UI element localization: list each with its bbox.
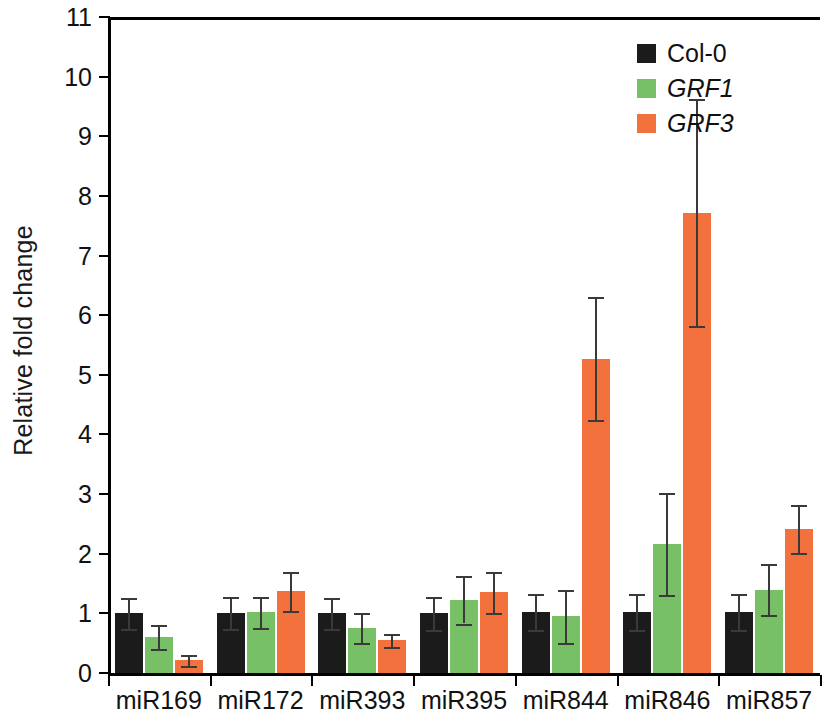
error-bar-cap-lower <box>456 624 472 626</box>
error-bar-cap-lower <box>588 420 604 422</box>
y-axis-tick-label: 4 <box>44 420 92 449</box>
error-bar-cap-lower <box>354 643 370 645</box>
legend-label-grf1: GRF1 <box>667 74 734 103</box>
error-bar-cap-lower <box>528 630 544 632</box>
legend-swatch-grf1 <box>637 79 656 98</box>
error-bar-line <box>230 597 232 629</box>
y-axis-tick <box>99 433 110 435</box>
y-axis-tick-label: 8 <box>44 181 92 210</box>
error-bar-line <box>331 598 333 629</box>
error-bar-line <box>666 493 668 594</box>
error-bar-cap-lower <box>629 630 645 632</box>
y-axis-tick <box>99 672 110 674</box>
error-bar-cap-upper <box>456 576 472 578</box>
error-bar-line <box>636 594 638 630</box>
error-bar-line <box>595 297 597 420</box>
error-bar-cap-upper <box>384 634 400 636</box>
x-axis-tick <box>617 675 619 686</box>
y-axis-tick <box>99 195 110 197</box>
error-bar-cap-lower <box>791 553 807 555</box>
y-axis-tick <box>99 374 110 376</box>
y-axis-tick-label: 6 <box>44 301 92 330</box>
legend-swatch-grf3 <box>637 114 656 133</box>
error-bar-cap-lower <box>384 647 400 649</box>
y-axis-tick <box>99 135 110 137</box>
y-axis-tick-label: 5 <box>44 360 92 389</box>
y-axis-tick <box>99 76 110 78</box>
x-axis-tick <box>515 675 517 686</box>
error-bar-line <box>128 598 130 629</box>
error-bar-line <box>738 594 740 630</box>
error-bar-cap-upper <box>486 572 502 574</box>
error-bar-cap-upper <box>558 590 574 592</box>
legend-label-col0: Col-0 <box>667 39 727 68</box>
y-axis-tick-label: 0 <box>44 659 92 688</box>
y-axis-tick-label: 11 <box>44 3 92 32</box>
x-axis-tick <box>718 675 720 686</box>
y-axis-tick <box>99 255 110 257</box>
error-bar-cap-lower <box>151 649 167 651</box>
error-bar-cap-lower <box>121 629 137 631</box>
error-bar-cap-lower <box>181 666 197 668</box>
x-axis-tick <box>311 675 313 686</box>
y-axis-title: Relative fold change <box>0 0 46 680</box>
y-axis-tick <box>99 314 110 316</box>
error-bar-line <box>463 576 465 624</box>
y-axis-tick <box>99 493 110 495</box>
error-bar-cap-lower <box>223 629 239 631</box>
error-bar-cap-upper <box>528 594 544 596</box>
error-bar-line <box>565 590 567 644</box>
error-bar-line <box>535 594 537 630</box>
legend-item-grf3: GRF3 <box>637 106 817 141</box>
legend-label-grf3: GRF3 <box>667 109 734 138</box>
x-axis-tick <box>413 675 415 686</box>
x-axis-tick <box>210 675 212 686</box>
error-bar-cap-upper <box>223 597 239 599</box>
error-bar-cap-upper <box>659 493 675 495</box>
error-bar-cap-lower <box>731 630 747 632</box>
error-bar-cap-lower <box>486 613 502 615</box>
error-bar-cap-lower <box>283 611 299 613</box>
error-bar-cap-upper <box>629 594 645 596</box>
x-axis-category-label: miR857 <box>709 686 829 712</box>
x-axis-line <box>108 673 820 676</box>
error-bar-line <box>260 597 262 628</box>
error-bar-line <box>361 613 363 643</box>
y-axis-title-text: Relative fold change <box>9 225 38 456</box>
y-axis-tick <box>99 553 110 555</box>
y-axis-tick <box>99 612 110 614</box>
error-bar-line <box>493 572 495 613</box>
error-bar-cap-upper <box>354 613 370 615</box>
error-bar-line <box>768 564 770 614</box>
error-bar-cap-upper <box>426 597 442 599</box>
error-bar-cap-upper <box>731 594 747 596</box>
error-bar-cap-lower <box>761 615 777 617</box>
error-bar-cap-upper <box>588 297 604 299</box>
error-bar-cap-upper <box>761 564 777 566</box>
y-axis-tick <box>99 16 110 18</box>
y-axis-tick-label: 9 <box>44 122 92 151</box>
legend: Col-0GRF1GRF3 <box>637 36 817 141</box>
error-bar-cap-lower <box>659 595 675 597</box>
y-axis-tick-label: 7 <box>44 241 92 270</box>
error-bar-cap-upper <box>253 597 269 599</box>
error-bar-cap-upper <box>283 572 299 574</box>
error-bar-line <box>433 597 435 630</box>
y-axis-tick-label: 1 <box>44 599 92 628</box>
error-bar-cap-upper <box>181 655 197 657</box>
error-bar-line <box>158 625 160 649</box>
x-axis-tick <box>820 675 822 686</box>
error-bar-cap-lower <box>558 643 574 645</box>
error-bar-cap-upper <box>121 598 137 600</box>
legend-item-grf1: GRF1 <box>637 71 817 106</box>
error-bar-cap-lower <box>689 326 705 328</box>
error-bar-cap-lower <box>253 628 269 630</box>
legend-item-col0: Col-0 <box>637 36 817 71</box>
error-bar-cap-lower <box>324 629 340 631</box>
y-axis-tick-label: 3 <box>44 480 92 509</box>
y-axis-tick-label: 2 <box>44 539 92 568</box>
error-bar-line <box>290 572 292 611</box>
error-bar-line <box>798 505 800 553</box>
error-bar-cap-upper <box>791 505 807 507</box>
error-bar-cap-upper <box>324 598 340 600</box>
